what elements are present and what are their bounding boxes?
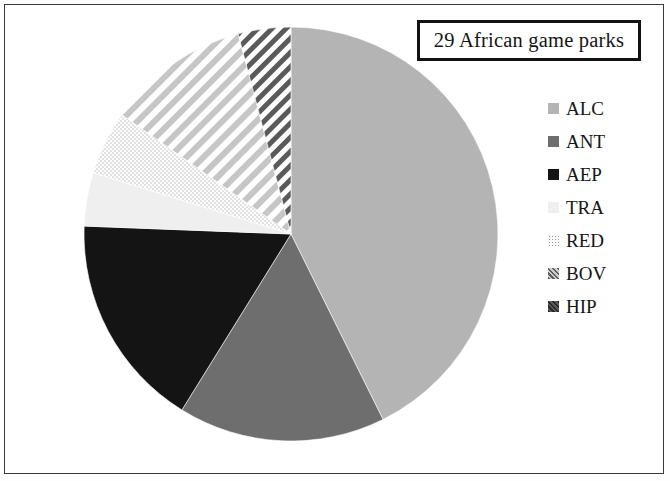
legend-item-hip[interactable]: HIP [548,290,658,323]
legend-swatch-icon [548,103,559,114]
legend-item-alc[interactable]: ALC [548,92,658,125]
figure-container: 29 African game parks ALCANTAEPTRAREDBOV… [0,0,670,481]
legend-swatch-icon [548,169,559,180]
legend-swatch-icon [548,235,559,246]
legend-item-ant[interactable]: ANT [548,125,658,158]
legend-item-red[interactable]: RED [548,224,658,257]
legend-item-aep[interactable]: AEP [548,158,658,191]
legend-label: TRA [566,198,604,217]
legend-label: RED [566,231,604,250]
chart-title: 29 African game parks [434,30,624,51]
legend-swatch-icon [548,301,559,312]
legend-label: AEP [566,165,602,184]
legend-swatch-icon [548,268,559,279]
legend-label: HIP [566,297,597,316]
legend-item-tra[interactable]: TRA [548,191,658,224]
legend-swatch-icon [548,202,559,213]
legend-item-bov[interactable]: BOV [548,257,658,290]
legend-label: ALC [566,99,604,118]
chart-title-box: 29 African game parks [417,20,641,61]
pie-slices-group [84,27,498,441]
chart-legend: ALCANTAEPTRAREDBOVHIP [548,92,658,323]
legend-label: ANT [566,132,605,151]
legend-label: BOV [566,264,606,283]
legend-swatch-icon [548,136,559,147]
